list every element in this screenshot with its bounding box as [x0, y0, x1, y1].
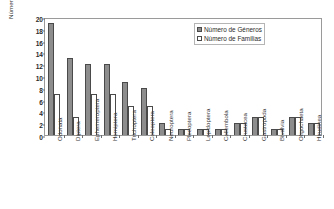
legend-swatch-icon: [197, 27, 202, 32]
y-axis-tick-label: 20: [23, 16, 43, 23]
x-axis-tick-label: Gastropoda: [260, 109, 267, 141]
x-axis-tick-label: Oligochaeta: [297, 108, 304, 141]
y-axis-tick-mark: [43, 125, 45, 126]
x-axis-tick-mark: [101, 135, 102, 138]
y-axis-tick-label: 10: [23, 75, 43, 82]
bar-group: [267, 19, 286, 135]
x-axis-tick-mark: [267, 135, 268, 138]
y-axis-tick-label: 2: [23, 122, 43, 129]
x-axis-tick-label: Trichoptera: [130, 110, 137, 141]
y-axis-tick-mark: [43, 19, 45, 20]
x-axis-tick-label: Collembola: [222, 110, 229, 141]
legend-label: Número de Géneros: [204, 26, 262, 33]
x-axis-tick-label: Hemiptera: [111, 113, 118, 141]
y-axis-tick-mark: [43, 78, 45, 79]
plot-area: 02468101214161820: [44, 18, 322, 136]
y-axis-tick-label: 14: [23, 51, 43, 58]
legend-item: Número de Géneros: [197, 25, 262, 34]
x-axis-tick-mark: [286, 135, 287, 138]
bar-group: [64, 19, 83, 135]
x-axis-tick-mark: [230, 135, 231, 138]
chart-legend: Número de GénerosNúmero de Familias: [194, 23, 265, 45]
x-axis-tick-label: Ephemeroptera: [93, 99, 100, 141]
x-axis-tick-mark: [193, 135, 194, 138]
x-axis-tick-label: Crustacea: [241, 113, 248, 141]
y-axis-tick-mark: [43, 30, 45, 31]
y-axis-tick-mark: [43, 42, 45, 43]
y-axis-tick-label: 4: [23, 110, 43, 117]
x-axis-tick-label: Coleoptera: [148, 111, 155, 141]
x-axis-tick-mark: [156, 135, 157, 138]
x-axis-tick-mark: [138, 135, 139, 138]
y-axis-tick-mark: [43, 89, 45, 90]
x-axis-tick-mark: [304, 135, 305, 138]
x-axis-tick-mark: [249, 135, 250, 138]
x-axis-tick-label: Odonata: [56, 117, 63, 141]
y-axis-tick-mark: [43, 66, 45, 67]
y-axis-tick-mark: [43, 113, 45, 114]
y-axis-title: Número de Géneros/Familias: [6, 0, 16, 38]
x-axis-tick-label: Diptera: [74, 121, 81, 141]
x-axis-tick-mark: [323, 135, 324, 138]
x-axis-tick-label: Hirudinea: [315, 115, 322, 141]
x-axis-tick-label: Lepidoptera: [204, 109, 211, 141]
y-axis-tick-label: 16: [23, 39, 43, 46]
x-axis-tick-label: Bivalvia: [278, 120, 285, 141]
y-axis-tick-label: 6: [23, 98, 43, 105]
x-axis-tick-mark: [119, 135, 120, 138]
y-axis-tick-label: 8: [23, 86, 43, 93]
y-axis-tick-mark: [43, 137, 45, 138]
legend-item: Número de Familias: [197, 34, 262, 43]
x-axis-tick-mark: [82, 135, 83, 138]
x-axis-tick-mark: [175, 135, 176, 138]
x-axis-tick-mark: [212, 135, 213, 138]
y-axis-tick-label: 0: [23, 134, 43, 141]
y-axis-tick-mark: [43, 54, 45, 55]
y-axis-tick-label: 18: [23, 27, 43, 34]
bar-chart-figure: Número de Géneros/Familias 0246810121416…: [0, 0, 334, 209]
bars-layer: [45, 19, 321, 135]
y-axis-tick-mark: [43, 101, 45, 102]
legend-swatch-icon: [197, 36, 202, 41]
x-axis-tick-label: Neuroptera: [167, 110, 174, 141]
y-axis-tick-label: 12: [23, 63, 43, 70]
legend-label: Número de Familias: [204, 35, 261, 42]
x-axis-tick-label: Plecoptera: [185, 112, 192, 141]
x-axis-tick-mark: [64, 135, 65, 138]
